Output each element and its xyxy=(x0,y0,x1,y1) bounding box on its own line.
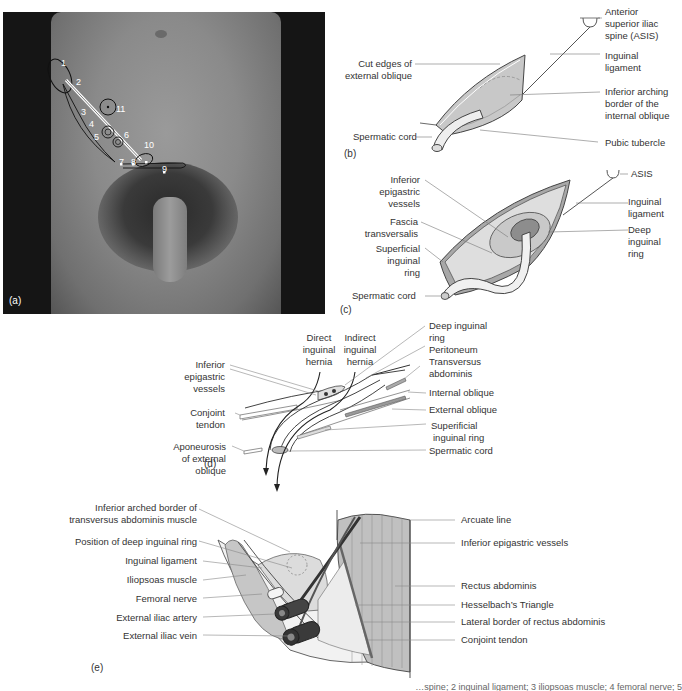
figure-caption-partial: …spine; 2 inguinal ligament; 3 iliopsoas… xyxy=(340,681,682,691)
label-inferior-epigastric-e: Inferior epigastric vessels xyxy=(461,537,568,549)
label-hesselbach-triangle: Hesselbach’s Triangle xyxy=(461,599,554,611)
label-arcuate-line: Arcuate line xyxy=(461,514,511,526)
panel-e-letter: (e) xyxy=(91,662,103,673)
label-conjoint-tendon-e: Conjoint tendon xyxy=(461,634,528,646)
label-inferior-arched-border: Inferior arched border of transversus ab… xyxy=(60,502,197,526)
label-iliopsoas: Iliopsoas muscle xyxy=(60,574,197,586)
label-femoral-nerve: Femoral nerve xyxy=(60,593,197,605)
label-external-iliac-vein: External iliac vein xyxy=(60,630,197,642)
panel-e-drawing xyxy=(0,0,682,691)
label-inguinal-ligament-e: Inguinal ligament xyxy=(60,555,197,567)
label-position-deep-ring: Position of deep inguinal ring xyxy=(40,536,197,548)
label-lateral-border-rectus: Lateral border of rectus abdominis xyxy=(461,616,605,628)
label-rectus-abdominis: Rectus abdominis xyxy=(461,580,537,592)
label-external-iliac-artery: External iliac artery xyxy=(60,612,197,624)
